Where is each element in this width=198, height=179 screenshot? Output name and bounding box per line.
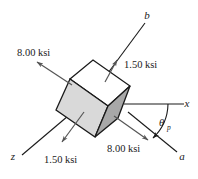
label-angle-theta: θ [159,117,164,128]
label-axis-a: a [179,150,185,162]
label-axis-b: b [144,9,150,21]
label-stress-upper-right: 1.50 ksi [124,59,157,70]
label-stress-lower-right: 8.00 ksi [107,143,140,154]
label-stress-upper-left: 8.00 ksi [17,47,50,58]
label-axis-z: z [10,150,16,162]
stress-element-figure: 8.00 ksi 1.50 ksi 1.50 ksi 8.00 ksi x z … [0,0,198,179]
label-angle-subscript: p [166,123,171,132]
label-stress-lower-left: 1.50 ksi [44,154,77,165]
label-axis-x: x [184,97,190,109]
